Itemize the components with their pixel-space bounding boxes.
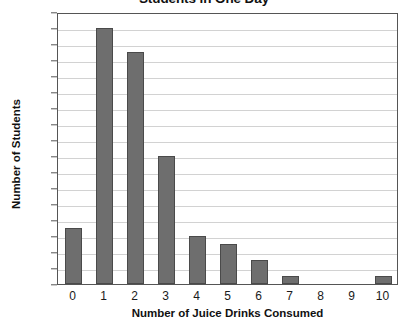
bar bbox=[375, 276, 391, 284]
plot-area bbox=[57, 13, 398, 285]
bar bbox=[127, 52, 143, 284]
bar bbox=[220, 244, 236, 284]
bar bbox=[282, 276, 298, 284]
bar bbox=[96, 28, 112, 284]
x-axis-tick-label: 5 bbox=[224, 289, 231, 303]
x-axis-tick-label: 0 bbox=[69, 289, 76, 303]
bar-chart: Students in One Day Number of Students 0… bbox=[0, 0, 408, 327]
x-axis-title: Number of Juice Drinks Consumed bbox=[57, 307, 398, 319]
x-axis-ticks: 012345678910 bbox=[57, 289, 398, 307]
x-axis-tick-label: 6 bbox=[255, 289, 262, 303]
x-axis-tick-label: 10 bbox=[376, 289, 389, 303]
bar bbox=[189, 236, 205, 284]
x-axis-tick-label: 2 bbox=[131, 289, 138, 303]
chart-title: Students in One Day bbox=[0, 0, 408, 6]
bar-series bbox=[58, 14, 397, 284]
x-axis-tick-label: 7 bbox=[286, 289, 293, 303]
bar bbox=[158, 156, 174, 284]
x-axis-tick-label: 1 bbox=[100, 289, 107, 303]
x-axis-tick-label: 4 bbox=[193, 289, 200, 303]
x-axis-tick-label: 3 bbox=[162, 289, 169, 303]
bar bbox=[65, 228, 81, 284]
bar bbox=[251, 260, 267, 284]
x-axis-tick-label: 8 bbox=[317, 289, 324, 303]
x-axis-tick-label: 9 bbox=[348, 289, 355, 303]
